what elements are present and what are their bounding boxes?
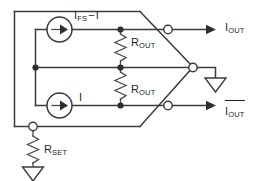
label-source-bottom: I	[79, 88, 82, 104]
label-resistor-bottom-sub: OUT	[139, 88, 155, 97]
label-resistor-bottom-base: R	[131, 83, 139, 95]
label-source-top-tail: I	[96, 9, 99, 21]
label-resistor-top-base: R	[131, 36, 139, 48]
label-output-bottom-overbar: IOUT	[225, 100, 245, 118]
label-source-top-operator: −	[87, 9, 96, 21]
ground-bottom	[23, 167, 44, 181]
current-source-bottom	[47, 93, 72, 118]
terminal-apex[interactable]	[189, 63, 197, 71]
resistor-top	[115, 30, 126, 68]
ground-right	[198, 68, 227, 93]
label-source-top-sub: FS	[77, 14, 87, 23]
label-output-top: IOUT	[225, 18, 245, 34]
label-resistor-bottom: ROUT	[131, 80, 155, 96]
terminal-output-top[interactable]	[164, 25, 172, 33]
label-resistor-set: RSET	[44, 140, 67, 156]
label-resistor-set-base: R	[44, 143, 52, 155]
label-source-top: IFS−I	[74, 6, 99, 22]
label-source-bottom-base: I	[79, 91, 82, 103]
arrowhead-output-bottom	[206, 101, 216, 110]
label-resistor-top: ROUT	[131, 33, 155, 49]
label-output-top-sub: OUT	[228, 26, 244, 35]
junction-dot-resistor-bottom	[117, 102, 123, 108]
label-resistor-top-sub: OUT	[139, 41, 155, 50]
label-resistor-set-sub: SET	[52, 148, 67, 157]
terminal-rset[interactable]	[29, 122, 37, 130]
terminal-output-bottom[interactable]	[164, 101, 172, 109]
junction-dot-resistor-mid	[117, 64, 123, 70]
current-source-top	[47, 17, 72, 42]
resistor-bottom	[115, 68, 126, 106]
label-output-bottom: IOUT	[225, 100, 245, 118]
circuit-diagram: IFS−I I ROUT ROUT IOUT IOUT RSET	[0, 0, 263, 181]
label-output-bottom-sub: OUT	[228, 110, 244, 119]
arrowhead-output-top	[206, 25, 216, 34]
junction-dot-resistor-top	[117, 26, 123, 32]
junction-dot-left-bus	[32, 64, 38, 70]
resistor-set	[28, 131, 39, 167]
